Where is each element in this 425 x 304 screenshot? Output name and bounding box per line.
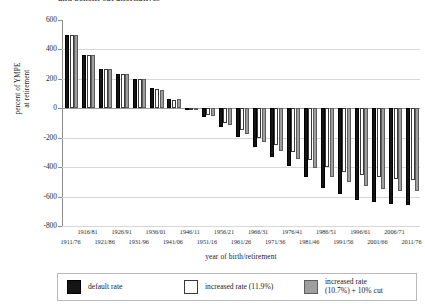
bar [377, 108, 381, 177]
x-axis-tick-label: 1996/61 [346, 228, 374, 235]
x-axis-tick-label: 1971/36 [261, 238, 289, 245]
bar-group [215, 20, 232, 226]
y-axis-title-line-1: percent of YMPE [14, 4, 23, 174]
bar [321, 108, 325, 188]
legend-entry[interactable]: default rate [67, 274, 122, 300]
bar [82, 55, 86, 108]
y-axis-tick-label: 600 [23, 16, 57, 23]
bar [211, 108, 215, 116]
bar [155, 89, 159, 108]
bar [406, 108, 410, 204]
bar [398, 108, 402, 190]
x-axis-tick-label: 1986/51 [312, 228, 340, 235]
bar [381, 108, 385, 189]
bar [355, 108, 359, 199]
bar-group [352, 20, 369, 226]
bar-group [113, 20, 130, 226]
bar [150, 88, 154, 109]
bar [108, 69, 112, 108]
y-axis-tick [58, 226, 62, 227]
bar [228, 108, 232, 125]
x-axis-tick-label: 1956/21 [210, 228, 238, 235]
legend-label: increased rate (10.7%) + 10% cut [325, 278, 383, 296]
bar [291, 108, 295, 152]
bar [194, 108, 198, 110]
x-axis-tick-label: 1966/31 [244, 228, 272, 235]
x-axis-tick-label: 1911/76 [57, 238, 85, 245]
bar [87, 55, 91, 108]
bar [202, 108, 206, 117]
bar-group [369, 20, 386, 226]
y-axis-tick-label: 200 [23, 75, 57, 82]
bar [274, 108, 278, 145]
bar [330, 108, 334, 176]
bar [415, 108, 419, 191]
bar [142, 79, 146, 108]
x-axis-tick-label: 2001/66 [363, 238, 391, 245]
bar [389, 108, 393, 204]
bar-group [318, 20, 335, 226]
x-axis-tick-label: 1926/91 [108, 228, 136, 235]
legend-entry[interactable]: increased rate (10.7%) + 10% cut [304, 274, 383, 300]
bar [223, 108, 227, 123]
bar [245, 108, 249, 134]
bar [240, 108, 244, 130]
bar [360, 108, 364, 175]
bar [121, 74, 125, 109]
bar [262, 108, 266, 142]
bar-group [267, 20, 284, 226]
bar [133, 79, 137, 108]
bar [185, 108, 189, 110]
bar [253, 108, 257, 146]
bar-group [79, 20, 96, 226]
gridline [62, 226, 420, 227]
bar [219, 108, 223, 127]
y-axis-tick-label: -800 [23, 222, 57, 229]
bar-group [335, 20, 352, 226]
bar-group [96, 20, 113, 226]
bar-group [164, 20, 181, 226]
bar-group [62, 20, 79, 226]
bar [125, 74, 129, 109]
bar [325, 108, 329, 167]
bar [236, 108, 240, 137]
bar [70, 35, 74, 108]
bar [342, 108, 346, 171]
white-swatch [184, 280, 198, 294]
bar [167, 99, 171, 109]
bar-group [130, 20, 147, 226]
y-axis-title-line-2: at retirement [23, 4, 32, 174]
bar [91, 55, 95, 108]
y-axis-tick-label: 400 [23, 45, 57, 52]
bar [372, 108, 376, 202]
gray-swatch [304, 280, 318, 294]
x-axis-tick-labels: 1911/761916/811921/861926/911931/961936/… [62, 228, 420, 250]
x-axis-title: year of birth/retirement [62, 252, 420, 261]
bar [116, 74, 120, 109]
x-axis-tick-label: 1946/11 [176, 228, 204, 235]
bar-group [232, 20, 249, 226]
bar [364, 108, 368, 186]
bar [394, 108, 398, 179]
bar [104, 69, 108, 108]
legend-entry[interactable]: increased rate (11.9%) [184, 274, 273, 300]
bar-group [403, 20, 420, 226]
bar [257, 108, 261, 137]
bar-group [181, 20, 198, 226]
bar [313, 108, 317, 168]
legend-label: increased rate (11.9%) [205, 283, 273, 292]
chart-title: and benefit cut alternatives [58, 0, 358, 1]
bar [189, 108, 193, 110]
bar [270, 108, 274, 157]
x-axis-tick-label: 1921/86 [91, 238, 119, 245]
x-axis-tick-label: 1976/41 [278, 228, 306, 235]
x-axis-tick-label: 1941/06 [159, 238, 187, 245]
bar [411, 108, 415, 179]
x-axis-tick-label: 2006/71 [380, 228, 408, 235]
y-axis-tick-label: 0 [23, 104, 57, 111]
black-swatch [67, 280, 81, 294]
plot-area: 6004002000-200-400-600-800 [62, 20, 420, 226]
x-axis-tick-label: 1981/46 [295, 238, 323, 245]
x-axis-tick-label: 1936/01 [142, 228, 170, 235]
